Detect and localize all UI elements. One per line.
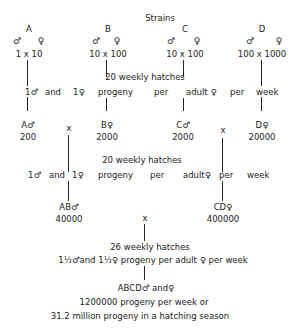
stage3-hatches: 26 weekly hatches xyxy=(110,243,190,252)
strain-d-cross: 100 x 1000 xyxy=(238,50,286,59)
female-symbol-b: ♀ xyxy=(114,37,121,46)
connector-line xyxy=(68,181,69,201)
male-symbol-d: ♂ xyxy=(246,37,254,46)
connector-line xyxy=(106,98,107,111)
stage1-hatches: 20 weekly hatches xyxy=(105,73,185,82)
result-a-male: A♂ xyxy=(21,121,34,130)
connector-line xyxy=(144,224,145,241)
connector-line xyxy=(261,60,262,86)
cross-mark-abcd: x xyxy=(142,214,147,223)
connector-line xyxy=(222,138,223,172)
stage3-progeny: 1½♂and 1½♀ progeny per adult ♀ per week xyxy=(58,256,247,265)
female-symbol-d: ♀ xyxy=(276,37,283,46)
result-ab-male: AB♂ xyxy=(59,203,78,212)
strain-a-label: A xyxy=(26,25,32,34)
cross-mark-ab: x xyxy=(66,124,71,133)
stage1-word: progeny xyxy=(98,88,133,97)
stage2-hatches: 20 weekly hatches xyxy=(102,156,182,165)
stage2-word: and xyxy=(49,171,65,180)
strain-d-label: D xyxy=(259,25,266,34)
stage1-word: week xyxy=(256,88,278,97)
result-ab-count: 40000 xyxy=(55,215,82,224)
male-symbol-c: ♂ xyxy=(167,37,175,46)
cross-mark-cd: x xyxy=(220,126,225,135)
result-b-female: B♀ xyxy=(101,121,113,130)
stage2-word: 1♂ xyxy=(28,171,41,180)
stage1-word: per xyxy=(230,88,244,97)
connector-line xyxy=(27,60,28,86)
connector-line xyxy=(222,181,223,201)
stage2-word: per xyxy=(219,171,233,180)
result-d-female: D♀ xyxy=(256,121,269,130)
stage3-result-label: ABCD♂ and♀ xyxy=(118,284,175,293)
stage1-word: per xyxy=(154,88,168,97)
male-symbol-a: ♂ xyxy=(13,37,21,46)
strain-b-label: B xyxy=(105,25,111,34)
stage1-word: adult ♀ xyxy=(186,88,217,97)
stage2-word: adult♀ xyxy=(183,171,211,180)
strain-a-cross: 1 x 10 xyxy=(16,50,43,59)
stage1-word: 1♀ xyxy=(73,88,85,97)
result-cd-female: CD♀ xyxy=(214,203,233,212)
connector-line xyxy=(144,266,145,280)
result-c-count: 2000 xyxy=(172,133,194,142)
stage2-word: week xyxy=(247,171,269,180)
result-cd-count: 400000 xyxy=(207,215,239,224)
female-symbol-c: ♀ xyxy=(194,37,201,46)
stage2-word: progeny xyxy=(98,171,133,180)
result-c-male: C♂ xyxy=(176,121,190,130)
stage1-word: 1♂ xyxy=(25,88,38,97)
strain-c-label: C xyxy=(182,25,188,34)
strain-b-cross: 10 x 100 xyxy=(89,50,126,59)
stage3-result-line2: 31.2 million progeny in a hatching seaso… xyxy=(51,312,229,321)
stage2-word: 1♀ xyxy=(72,171,84,180)
result-b-count: 2000 xyxy=(96,133,118,142)
strain-c-cross: 10 x 100 xyxy=(166,50,203,59)
connector-line xyxy=(27,97,28,111)
stage3-result-line1: 1200000 progeny per week or xyxy=(80,298,209,307)
result-a-count: 200 xyxy=(20,133,36,142)
connector-line xyxy=(183,98,184,111)
stage1-word: and xyxy=(45,88,61,97)
result-d-count: 20000 xyxy=(248,133,275,142)
stage2-word: per xyxy=(150,171,164,180)
diagram-title: Strains xyxy=(145,14,175,23)
connector-line xyxy=(261,97,262,111)
connector-line xyxy=(68,135,69,172)
male-symbol-b: ♂ xyxy=(92,37,100,46)
female-symbol-a: ♀ xyxy=(38,37,45,46)
